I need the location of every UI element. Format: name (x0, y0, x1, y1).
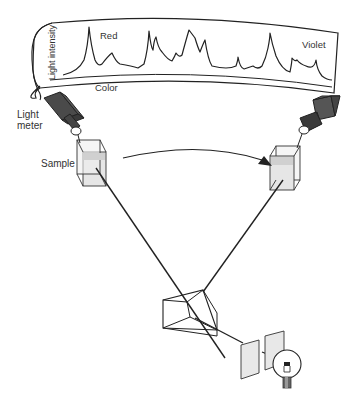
sample-cuvette-left (77, 140, 106, 186)
red-label: Red (100, 30, 117, 41)
prism (163, 290, 217, 336)
slit-front (241, 340, 259, 379)
sample-label: Sample (41, 158, 75, 169)
meter-lens-left (71, 127, 81, 135)
sweep-arrow (123, 149, 272, 166)
y-axis-label: Light intensity (47, 24, 57, 80)
spectrum-panel: Light intensity Color Red Violet (31, 18, 338, 100)
light-meter-label: Light meter (17, 109, 43, 131)
spectrophotometer-diagram: Light intensity Color Red Violet Light m… (0, 0, 355, 409)
light-bulb-icon (273, 350, 301, 388)
x-axis-label: Color (95, 82, 118, 93)
light-beams (78, 134, 302, 358)
violet-label: Violet (302, 39, 326, 50)
light-meter-right (299, 96, 340, 134)
light-meter-left (44, 92, 84, 135)
sample-cuvette-right (270, 146, 300, 190)
meter-lens-right (299, 126, 309, 134)
